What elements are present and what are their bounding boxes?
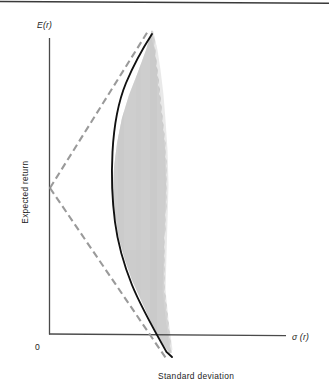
y-axis-title: Expected return	[21, 149, 29, 235]
origin-label: 0	[35, 343, 40, 352]
origin-label-text: 0	[35, 342, 40, 352]
y-axis-symbol-text: E(r)	[37, 20, 52, 30]
feasible-portfolio-region	[100, 20, 190, 370]
top-horizontal-rule	[0, 2, 329, 4]
x-axis-title-text: Standard deviation	[158, 371, 234, 381]
x-axis-title: Standard deviation	[158, 372, 234, 380]
x-axis-symbol-label: σ (r)	[292, 333, 309, 342]
figure-container: E(r) σ (r) 0 Expected return Standard de…	[0, 0, 329, 386]
y-axis-symbol-label: E(r)	[37, 21, 52, 30]
risk-free-rate-vertex	[49, 187, 51, 189]
plot-canvas	[0, 0, 329, 386]
x-axis-line	[49, 334, 286, 336]
y-axis-title-text: Expected return	[20, 161, 30, 224]
x-axis-symbol-text: σ (r)	[292, 332, 309, 342]
